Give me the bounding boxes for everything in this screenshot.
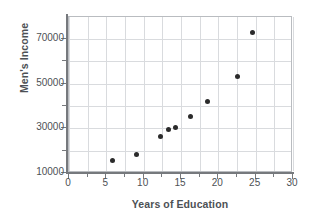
x-axis-tick-minor	[236, 174, 237, 177]
data-point	[250, 30, 255, 35]
x-axis-tick-minor	[161, 174, 162, 177]
scatter-chart: Men's Income 10000300005000070000 051015…	[0, 0, 314, 221]
gridline-vertical	[256, 17, 257, 171]
gridline-vertical	[293, 17, 294, 171]
x-axis-tick-label: 30	[277, 177, 307, 188]
gridline-vertical	[88, 17, 89, 171]
y-axis-tick-label: 50000	[8, 77, 64, 88]
y-axis-tick-minor	[62, 105, 66, 106]
data-point	[205, 99, 210, 104]
y-axis-tick-minor	[62, 60, 66, 61]
gridline-vertical	[69, 17, 70, 171]
x-axis-tick-label: 25	[240, 177, 270, 188]
y-axis-tick-label: 10000	[8, 166, 64, 177]
gridline-vertical	[181, 17, 182, 171]
x-axis-tick-minor	[124, 174, 125, 177]
x-axis-tick-minor	[199, 174, 200, 177]
gridline-vertical	[274, 17, 275, 171]
y-axis-tick-label: 70000	[8, 32, 64, 43]
x-axis-tick-minor	[87, 174, 88, 177]
y-axis-tick-minor	[62, 150, 66, 151]
data-point	[110, 158, 115, 163]
data-point	[134, 152, 139, 157]
x-axis-tick-label: 10	[128, 177, 158, 188]
gridline-horizontal	[69, 128, 291, 129]
data-point	[173, 125, 178, 130]
gridline-vertical	[237, 17, 238, 171]
gridline-horizontal	[69, 84, 291, 85]
x-axis-tick-label: 5	[90, 177, 120, 188]
gridline-vertical	[144, 17, 145, 171]
y-axis-tick-label: 30000	[8, 121, 64, 132]
x-axis-title: Years of Education	[68, 198, 292, 210]
data-point	[188, 114, 193, 119]
data-point	[235, 74, 240, 79]
x-axis-tick-minor	[273, 174, 274, 177]
x-axis-tick-label: 15	[165, 177, 195, 188]
gridline-vertical	[106, 17, 107, 171]
gridline-horizontal	[69, 39, 291, 40]
gridline-vertical	[200, 17, 201, 171]
x-axis-tick-label: 20	[202, 177, 232, 188]
gridline-horizontal	[69, 61, 291, 62]
y-axis-line	[66, 14, 68, 174]
y-axis-title: Men's Income	[18, 0, 30, 128]
x-axis-tick-label: 0	[53, 177, 83, 188]
data-point	[166, 127, 171, 132]
plot-area	[68, 16, 292, 172]
gridline-horizontal	[69, 106, 291, 107]
gridline-vertical	[125, 17, 126, 171]
gridline-horizontal	[69, 151, 291, 152]
gridline-vertical	[162, 17, 163, 171]
gridline-vertical	[218, 17, 219, 171]
